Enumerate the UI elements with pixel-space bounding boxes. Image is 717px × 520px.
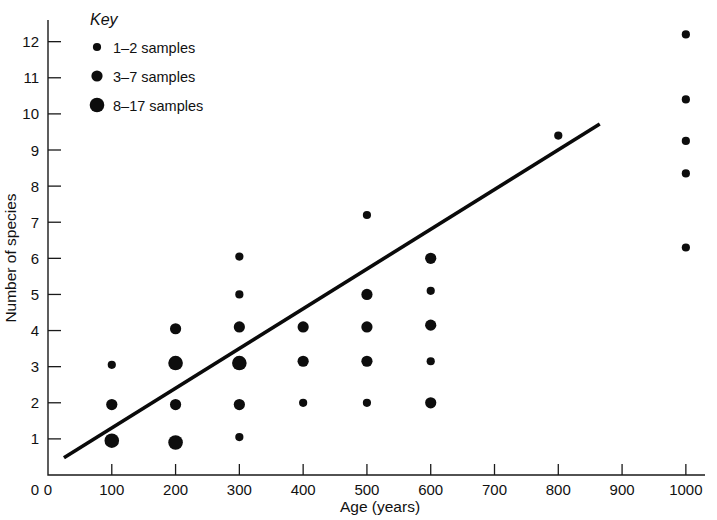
y-axis-title: Number of species [2, 193, 19, 322]
y-tick-label: 2 [31, 394, 39, 411]
data-point [682, 95, 690, 103]
y-tick-label: 11 [23, 69, 39, 86]
data-point [682, 169, 690, 177]
y-tick-label: 4 [31, 322, 39, 339]
regression-line [64, 124, 600, 458]
x-axis-title: Age (years) [340, 498, 420, 515]
legend-label: 3–7 samples [113, 69, 195, 85]
data-point [168, 435, 183, 450]
data-point [682, 137, 690, 145]
data-point [682, 243, 690, 251]
y-tick-label: 12 [22, 33, 39, 50]
x-tick-label: 600 [418, 481, 443, 498]
data-point [104, 433, 119, 448]
data-point [234, 399, 245, 410]
data-point [425, 320, 436, 331]
x-tick-label: 200 [163, 481, 188, 498]
y-tick-label: 6 [31, 250, 39, 267]
data-point [682, 30, 690, 38]
x-axis-tick-labels: 01002003004005006007008009001000 [44, 481, 703, 498]
x-tick-label: 0 [44, 481, 52, 498]
legend-title: Key [90, 11, 119, 28]
data-point [361, 289, 372, 300]
scatter-plot-figure: 01002003004005006007008009001000 1234567… [0, 0, 717, 520]
y-axis-tick-labels: 1234567891011120 [22, 33, 39, 498]
x-tick-label: 400 [291, 481, 316, 498]
data-point [427, 287, 435, 295]
origin-label: 0 [31, 481, 39, 498]
data-point [299, 399, 307, 407]
axes-group: 01002003004005006007008009001000 1234567… [22, 20, 705, 498]
data-point [170, 323, 181, 334]
x-tick-label: 100 [99, 481, 124, 498]
x-tick-label: 300 [227, 481, 252, 498]
legend-label: 8–17 samples [113, 98, 203, 114]
data-points-group [104, 30, 689, 449]
data-point [361, 321, 372, 332]
x-tick-label: 500 [354, 481, 379, 498]
legend: Key 1–2 samples3–7 samples8–17 samples [90, 11, 204, 114]
y-axis-ticks [48, 42, 61, 439]
y-tick-label: 9 [31, 142, 39, 159]
y-tick-label: 7 [31, 214, 39, 231]
data-point [235, 290, 243, 298]
data-point [554, 131, 562, 139]
legend-entries: 1–2 samples3–7 samples8–17 samples [90, 40, 204, 114]
data-point [427, 357, 435, 365]
data-point [363, 211, 371, 219]
regression-line-segment [64, 124, 600, 458]
legend-marker-large [90, 98, 105, 113]
data-point [298, 321, 309, 332]
data-point [361, 356, 372, 367]
data-point [232, 356, 247, 371]
data-point [298, 356, 309, 367]
y-tick-label: 8 [31, 178, 39, 195]
x-axis-ticks [112, 464, 686, 475]
data-point [235, 433, 243, 441]
data-point [235, 252, 243, 260]
data-point [168, 356, 183, 371]
y-tick-label: 5 [31, 286, 39, 303]
data-point [425, 397, 436, 408]
data-point [108, 361, 116, 369]
x-tick-label: 900 [610, 481, 635, 498]
plot-canvas: 01002003004005006007008009001000 1234567… [0, 0, 717, 520]
data-point [234, 321, 245, 332]
legend-marker-small [93, 43, 101, 51]
y-tick-label: 3 [31, 358, 39, 375]
y-tick-label: 10 [22, 105, 39, 122]
data-point [363, 399, 371, 407]
x-tick-label: 700 [482, 481, 507, 498]
legend-label: 1–2 samples [113, 40, 195, 56]
y-tick-label: 1 [31, 430, 39, 447]
data-point [170, 399, 181, 410]
legend-marker-medium [91, 70, 102, 81]
data-point [106, 399, 117, 410]
data-point [425, 253, 436, 264]
x-tick-label: 1000 [669, 481, 702, 498]
x-tick-label: 800 [546, 481, 571, 498]
